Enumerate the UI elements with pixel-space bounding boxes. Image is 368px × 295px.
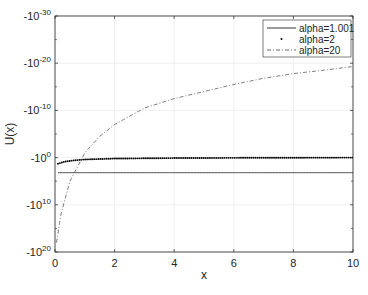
x-tick-label: 10 — [347, 257, 359, 269]
figure: 0246810 -10-30-10-20-10-10-100-1010-1020… — [0, 0, 368, 295]
x-tick-label: 4 — [171, 257, 177, 269]
y-tick-label: -1010 — [26, 197, 51, 211]
chart-canvas: 0246810 -10-30-10-20-10-10-100-1010-1020… — [0, 0, 368, 295]
y-tick-label: -10-30 — [24, 8, 52, 22]
y-tick-label: -10-10 — [24, 102, 52, 116]
x-tick-label: 8 — [290, 257, 296, 269]
y-tick-label: -100 — [31, 150, 52, 164]
x-axis-label: x — [201, 268, 207, 282]
legend-marker-dot-icon — [281, 38, 283, 40]
x-tick-label: 6 — [231, 257, 237, 269]
y-tick-labels: -10-30-10-20-10-10-100-1010-1020 — [24, 8, 52, 258]
y-tick-label: -1020 — [26, 244, 51, 258]
legend: alpha=1.001 alpha=2 alpha=20 — [263, 20, 355, 57]
x-tick-label: 0 — [52, 257, 58, 269]
legend-label-alpha-2: alpha=2 — [299, 34, 335, 45]
legend-label-alpha-1001: alpha=1.001 — [299, 23, 355, 34]
y-axis-label: U(x) — [3, 123, 17, 146]
x-tick-label: 2 — [112, 257, 118, 269]
legend-label-alpha-20: alpha=20 — [299, 45, 341, 56]
y-tick-label: -10-20 — [24, 55, 52, 69]
